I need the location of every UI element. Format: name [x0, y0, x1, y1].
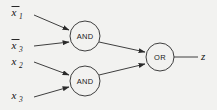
or-gate-label: OR [154, 53, 166, 62]
input-label-x2-base: x [11, 55, 17, 67]
input-label-x3-subscript: 3 [18, 95, 23, 104]
input-label-x3-negated-subscript: 3 [18, 45, 23, 54]
input-label-x3-base: x [11, 89, 17, 101]
output-label-z: z [200, 50, 206, 62]
wire-in4-to-and-bottom [34, 87, 69, 97]
logic-circuit-diagram: AND AND OR x 1 x 3 x 2 x 3 z [0, 0, 217, 110]
input-label-x1-base: x [11, 6, 17, 18]
and-gate-top-label: AND [77, 32, 94, 41]
input-label-x3-negated-base: x [11, 39, 17, 51]
input-label-x1-negated: x 1 [11, 6, 23, 21]
circuit-canvas: AND AND OR x 1 x 3 x 2 x 3 z [0, 0, 217, 110]
wire-and-bottom-to-or [99, 64, 145, 75]
wire-in3-to-and-bottom [34, 62, 69, 75]
wire-in1-to-and-top [34, 15, 69, 30]
input-label-x2: x 2 [11, 55, 24, 70]
input-label-x3-negated: x 3 [11, 39, 24, 54]
and-gate-bottom-label: AND [77, 77, 94, 86]
wire-and-top-to-or [99, 42, 145, 52]
input-label-x3: x 3 [11, 89, 24, 104]
input-label-x1-subscript: 1 [19, 12, 23, 21]
wire-in2-to-and-top [34, 42, 69, 46]
input-label-x2-subscript: 2 [19, 61, 23, 70]
